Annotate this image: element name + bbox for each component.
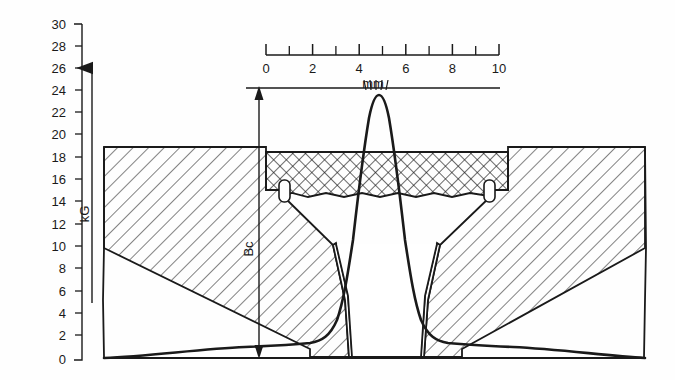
mm-tick-label: 4 — [356, 61, 363, 76]
y-tick-label: 18 — [52, 150, 66, 165]
magnet-cross-section — [103, 147, 646, 358]
magnet-outline — [103, 147, 104, 357]
y-tick-label: 0 — [59, 352, 66, 367]
mm-tick-label: 8 — [449, 61, 456, 76]
mm-tick-label: 6 — [402, 61, 409, 76]
bc-label: Bc — [241, 241, 256, 257]
y-tick-label: 8 — [59, 261, 66, 276]
mm-tick-label: 0 — [262, 61, 269, 76]
y-tick-label: 14 — [52, 194, 66, 209]
y-axis-ticks — [75, 46, 82, 335]
coil-region — [266, 152, 508, 197]
left-shim — [279, 180, 290, 202]
y-axis-unit-label: kG — [77, 206, 92, 223]
y-axis: 30 28 26 24 22 20 18 16 14 12 10 8 6 4 2… — [52, 17, 92, 367]
y-tick-label: 22 — [52, 105, 66, 120]
y-axis-tick-labels: 30 28 26 24 22 20 18 16 14 12 10 8 6 4 2… — [52, 17, 66, 367]
y-tick-label: 2 — [59, 328, 66, 343]
y-tick-label: 28 — [52, 39, 66, 54]
y-tick-label: 26 — [52, 61, 66, 76]
y-tick-label: 24 — [52, 83, 66, 98]
y-tick-label: 6 — [59, 284, 66, 299]
right-shim — [484, 180, 495, 202]
mm-scale-labels: 0 2 4 6 8 10 — [262, 61, 506, 76]
mm-scale: 0 2 4 6 8 10 mm — [262, 44, 506, 91]
y-tick-label: 10 — [52, 239, 66, 254]
magnet-field-figure: 30 28 26 24 22 20 18 16 14 12 10 8 6 4 2… — [0, 0, 675, 380]
y-tick-label: 16 — [52, 172, 66, 187]
y-tick-label: 20 — [52, 127, 66, 142]
y-tick-label: 12 — [52, 217, 66, 232]
mm-tick-label: 10 — [492, 61, 506, 76]
y-tick-label: 4 — [59, 306, 66, 321]
mm-scale-ticks — [266, 44, 499, 55]
mm-tick-label: 2 — [309, 61, 316, 76]
y-tick-label: 30 — [52, 17, 66, 32]
